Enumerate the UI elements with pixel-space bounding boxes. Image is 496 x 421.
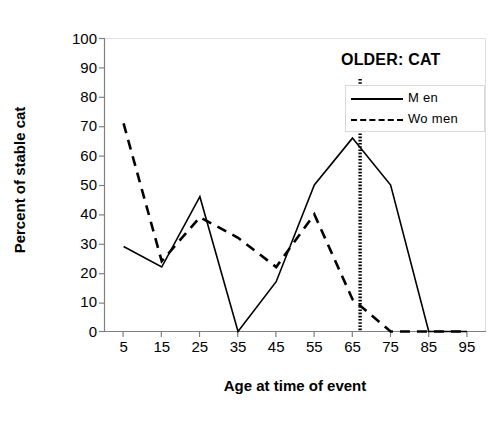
legend-item-men: M en <box>346 89 486 109</box>
x-tick-marks <box>123 332 467 338</box>
series-line-women <box>124 123 467 331</box>
chart-figure: 1009080706050403020100 51525354555657585… <box>0 0 496 421</box>
x-axis-tick-label: 35 <box>218 338 258 356</box>
y-tick-marks <box>99 39 104 332</box>
y-axis-tick-label: 60 <box>53 148 97 164</box>
legend-label-men: M en <box>408 90 438 105</box>
y-axis-tick-labels: 1009080706050403020100 <box>53 30 97 340</box>
y-axis-tick-label: 50 <box>53 177 97 193</box>
plot-annotation-older-cat: OLDER: CAT <box>341 51 440 69</box>
x-axis-tick-labels: 5152535455565758595 <box>104 338 486 358</box>
y-axis-tick-label: 0 <box>53 324 97 340</box>
y-axis-tick-label: 90 <box>53 60 97 76</box>
plot-area-border <box>105 39 486 332</box>
x-axis-tick-label: 55 <box>294 338 334 356</box>
x-axis-tick-label: 95 <box>447 338 487 356</box>
x-axis-title: Age at time of event <box>104 377 486 394</box>
legend-label-women: Wo men <box>408 111 458 126</box>
x-axis-tick-label: 65 <box>332 338 372 356</box>
y-axis-tick-label: 100 <box>53 31 97 47</box>
x-axis-tick-label: 5 <box>104 338 144 356</box>
x-axis-tick-label: 15 <box>142 338 182 356</box>
x-axis-tick-label: 25 <box>180 338 220 356</box>
legend-swatch-dashed-icon <box>351 119 403 121</box>
y-axis-title: Percent of stable cat <box>11 60 33 300</box>
y-axis-tick-label: 70 <box>53 118 97 134</box>
legend-item-women: Wo men <box>346 110 486 130</box>
legend-swatch-solid-icon <box>351 98 403 100</box>
chart-legend: M en Wo men <box>345 85 485 132</box>
y-axis-tick-label: 30 <box>53 236 97 252</box>
y-axis-tick-label: 40 <box>53 206 97 222</box>
y-axis-tick-label: 20 <box>53 265 97 281</box>
x-axis-tick-label: 85 <box>409 338 449 356</box>
x-axis-tick-label: 75 <box>371 338 411 356</box>
y-axis-tick-label: 10 <box>53 294 97 310</box>
series-line-men <box>124 138 467 331</box>
y-axis-tick-label: 80 <box>53 89 97 105</box>
x-axis-tick-label: 45 <box>256 338 296 356</box>
